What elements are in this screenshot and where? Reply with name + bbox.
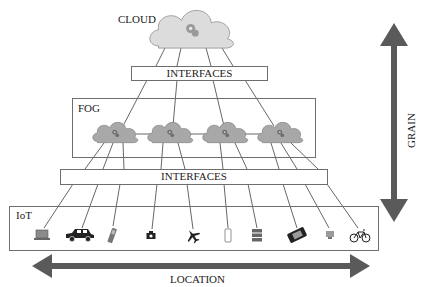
grain-axis-arrow <box>380 23 408 222</box>
cloud-to-interface-lines <box>156 48 233 66</box>
fog-layer-label: FOG <box>78 102 100 114</box>
location-axis-label: LOCATION <box>170 273 225 285</box>
fog-layer-box <box>72 98 316 158</box>
top-interfaces-box: INTERFACES <box>131 66 268 81</box>
bottom-interfaces-box: INTERFACES <box>60 169 328 185</box>
iot-layer-box <box>9 206 379 251</box>
grain-axis-label: GRAIN <box>405 113 417 148</box>
top-interfaces-label: INTERFACES <box>167 67 233 79</box>
cloud-node <box>150 10 233 48</box>
iot-layer-label: IoT <box>16 209 32 221</box>
cloud-layer-label: CLOUD <box>118 13 156 25</box>
bottom-interfaces-label: INTERFACES <box>161 170 227 182</box>
